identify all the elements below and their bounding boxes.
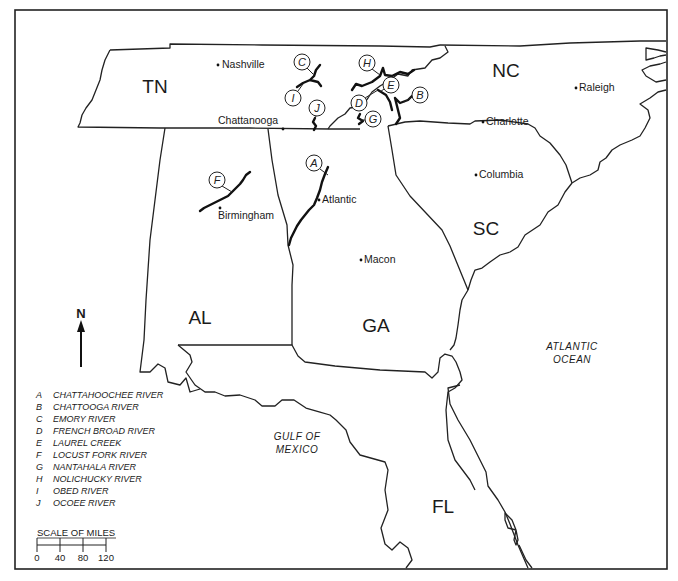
state-label-al: AL: [188, 307, 211, 328]
river-a-chattahoochee: [289, 167, 328, 245]
svg-text:NANTAHALA RIVER: NANTAHALA RIVER: [53, 462, 137, 472]
marker-h: H: [359, 55, 380, 75]
al-ga-border: [268, 129, 293, 345]
atlantic-ocean-label-2: OCEAN: [553, 354, 591, 365]
city-charlotte: Charlotte: [482, 115, 529, 127]
svg-text:OBED RIVER: OBED RIVER: [53, 486, 109, 496]
map-frame: [15, 10, 667, 569]
nc-virginia-border: [440, 41, 666, 46]
legend-item: G NANTAHALA RIVER: [36, 462, 137, 472]
svg-text:Raleigh: Raleigh: [579, 81, 615, 93]
svg-text:B: B: [416, 89, 423, 101]
state-label-nc: NC: [492, 60, 519, 81]
svg-text:D: D: [355, 97, 363, 109]
svg-text:80: 80: [78, 552, 89, 563]
southeast-rivers-map: A B C D E F G: [0, 0, 678, 581]
legend-item: J OCOEE RIVER: [35, 498, 116, 508]
city-macon: Macon: [360, 253, 396, 265]
svg-text:J: J: [313, 102, 320, 114]
fl-east-coast-outer: [448, 385, 528, 568]
state-label-ga: GA: [362, 315, 390, 336]
marker-g: G: [361, 111, 381, 127]
legend-item: A CHATTAHOOCHEE RIVER: [35, 390, 164, 400]
svg-text:CHATTOOGA RIVER: CHATTOOGA RIVER: [53, 402, 139, 412]
legend-item: H NOLICHUCKY RIVER: [36, 474, 142, 484]
legend-item: C EMORY RIVER: [36, 414, 116, 424]
svg-text:B: B: [36, 402, 42, 412]
svg-text:G: G: [36, 462, 43, 472]
north-label: N: [76, 306, 85, 321]
gulf-of-mexico-label-2: MEXICO: [276, 444, 318, 455]
marker-d: D: [351, 90, 378, 111]
city-columbia: Columbia: [475, 168, 524, 180]
svg-text:LAUREL CREEK: LAUREL CREEK: [53, 438, 122, 448]
state-label-tn: TN: [142, 76, 167, 97]
scale-bar: SCALE OF MILES 0 40 80 120: [34, 527, 116, 563]
svg-text:Columbia: Columbia: [479, 168, 524, 180]
svg-text:F: F: [36, 450, 42, 460]
svg-text:EMORY RIVER: EMORY RIVER: [53, 414, 116, 424]
marker-c: C: [294, 54, 313, 74]
svg-text:E: E: [387, 79, 395, 91]
ga-sc-border: [388, 126, 468, 290]
svg-text:40: 40: [55, 552, 66, 563]
state-label-fl: FL: [432, 496, 454, 517]
svg-text:Charlotte: Charlotte: [486, 115, 529, 127]
svg-text:H: H: [36, 474, 43, 484]
water-labels: ATLANTIC OCEAN GULF OF MEXICO: [274, 341, 598, 455]
svg-text:Chattanooga: Chattanooga: [218, 114, 278, 126]
svg-text:E: E: [36, 438, 43, 448]
ga-coast: [450, 290, 468, 350]
legend-item: I OBED RIVER: [36, 486, 109, 496]
svg-text:Nashville: Nashville: [222, 58, 265, 70]
north-arrow: N: [76, 306, 85, 367]
svg-text:FRENCH BROAD RIVER: FRENCH BROAD RIVER: [53, 426, 156, 436]
svg-text:CHATTAHOOCHEE RIVER: CHATTAHOOCHEE RIVER: [53, 390, 164, 400]
svg-text:OCOEE RIVER: OCOEE RIVER: [53, 498, 116, 508]
legend-item: E LAUREL CREEK: [36, 438, 122, 448]
svg-text:Atlantic: Atlantic: [322, 193, 356, 205]
svg-text:G: G: [369, 113, 378, 125]
svg-text:D: D: [36, 426, 43, 436]
svg-text:LOCUST FORK RIVER: LOCUST FORK RIVER: [53, 450, 148, 460]
scale-title: SCALE OF MILES: [37, 527, 115, 538]
atlantic-ocean-label: ATLANTIC: [545, 341, 598, 352]
legend-item: D FRENCH BROAD RIVER: [36, 426, 156, 436]
marker-i: I: [285, 84, 303, 106]
state-label-sc: SC: [473, 218, 499, 239]
svg-text:C: C: [298, 56, 306, 68]
gulf-coast: [178, 345, 412, 568]
svg-text:NOLICHUCKY RIVER: NOLICHUCKY RIVER: [53, 474, 142, 484]
svg-text:J: J: [35, 498, 41, 508]
svg-text:A: A: [35, 390, 42, 400]
city-atlantic: Atlantic: [318, 193, 357, 205]
city-birmingham: Birmingham: [218, 207, 274, 221]
svg-text:I: I: [291, 92, 294, 104]
svg-text:Birmingham: Birmingham: [218, 209, 274, 221]
legend-item: F LOCUST FORK RIVER: [36, 450, 148, 460]
marker-f: F: [209, 172, 232, 192]
alabama-border: [140, 128, 200, 392]
svg-text:0: 0: [34, 552, 39, 563]
legend-item: B CHATTOOGA RIVER: [36, 402, 139, 412]
svg-text:120: 120: [98, 552, 114, 563]
svg-text:I: I: [36, 486, 39, 496]
svg-text:H: H: [363, 57, 371, 69]
marker-j: J: [309, 100, 325, 119]
city-raleigh: Raleigh: [575, 81, 615, 93]
legend: A CHATTAHOOCHEE RIVER B CHATTOOGA RIVER …: [35, 390, 164, 508]
svg-text:A: A: [309, 157, 317, 169]
gulf-of-mexico-label: GULF OF: [274, 431, 321, 442]
svg-text:Macon: Macon: [364, 253, 396, 265]
river-g-nantahala: [358, 114, 363, 124]
al-fl-border: [178, 345, 462, 388]
north-arrow-icon: [77, 320, 85, 332]
marker-e: E: [380, 77, 399, 93]
city-nashville: Nashville: [217, 58, 265, 70]
marker-a: A: [306, 155, 328, 175]
nc-coast: [572, 48, 666, 183]
svg-text:C: C: [36, 414, 43, 424]
river-b-chattooga: [395, 96, 412, 124]
